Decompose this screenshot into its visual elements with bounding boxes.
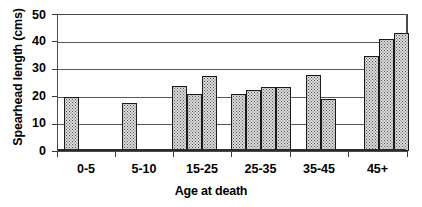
y-tick-label-0: 0 (18, 145, 46, 158)
bar-25-35-2 (246, 90, 261, 151)
bar-series (58, 15, 406, 151)
bar-35-45-1 (306, 75, 321, 151)
bar-45plus-1 (364, 56, 379, 151)
bar-15-25-2 (187, 94, 202, 151)
y-tick-label-30: 30 (18, 62, 46, 75)
x-tick-mark-5-10 (173, 152, 174, 157)
bar-15-25-1 (172, 86, 187, 151)
bar-25-35-4 (276, 87, 291, 151)
x-axis-title: Age at death (0, 184, 422, 198)
x-tick-label-25-35: 25-35 (231, 163, 290, 176)
x-tick-label-45plus: 45+ (348, 163, 407, 176)
bar-45plus-2 (379, 39, 394, 151)
x-axis-line (58, 149, 406, 151)
bar-45plus-3 (394, 33, 409, 151)
x-tick-mark-start (57, 152, 58, 157)
x-tick-mark-45plus (407, 152, 408, 157)
x-tick-mark-15-25 (231, 152, 232, 157)
x-tick-label-0-5: 0-5 (57, 163, 115, 176)
x-tick-mark-0-5 (115, 152, 116, 157)
x-tick-mark-25-35 (290, 152, 291, 157)
bar-25-35-1 (231, 94, 246, 151)
chart-figure: Spearhead length (cms) 50 40 30 20 10 0 (0, 0, 422, 207)
y-tick-label-40: 40 (18, 35, 46, 48)
bar-5-10-1 (122, 103, 137, 151)
bar-15-25-3 (202, 76, 217, 151)
bar-0-5-1 (64, 97, 79, 151)
y-tick-label-10: 10 (18, 117, 46, 130)
y-axis-title: Spearhead length (cms) (11, 0, 25, 157)
plot-area (57, 14, 408, 152)
bar-35-45-2 (321, 99, 336, 151)
bar-25-35-3 (261, 87, 276, 151)
y-tick-label-50: 50 (18, 9, 46, 22)
x-tick-mark-35-45 (348, 152, 349, 157)
x-tick-label-35-45: 35-45 (290, 163, 348, 176)
y-tick-label-20: 20 (18, 90, 46, 103)
x-tick-label-15-25: 15-25 (173, 163, 231, 176)
x-tick-label-5-10: 5-10 (115, 163, 173, 176)
